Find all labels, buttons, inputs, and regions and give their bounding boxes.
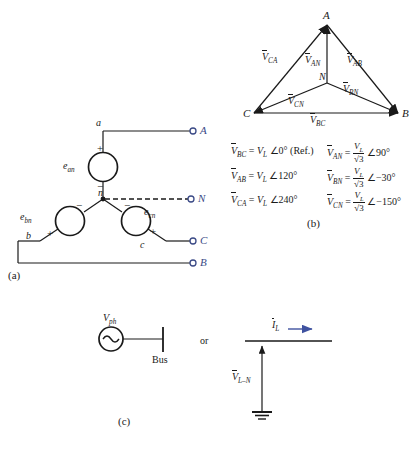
node-label-c: c (140, 240, 144, 250)
source-label-ebn-sub: bn (24, 217, 31, 225)
phasor-vertex-B: B (402, 108, 409, 119)
equation-VAN-fraction: VL √3 (353, 141, 364, 164)
phasor-label-VAN: VAN (305, 55, 320, 68)
polarity-plus-ebn: + (47, 228, 53, 239)
terminal-label-N: N (198, 193, 205, 204)
phasor-label-VCA-base: V (262, 52, 268, 62)
equation-VAB-angle-symbol: ∠ (269, 170, 278, 181)
panel-c-source-bus (99, 327, 163, 352)
phasor-label-VAB-sub: AB (353, 60, 362, 68)
phasor-vertex-C: C (243, 108, 250, 119)
phasor-label-VBN-sub: BN (349, 89, 358, 97)
equation-VAB-lhs: V (231, 170, 237, 181)
phasor-label-VBC-sub: BC (316, 120, 325, 128)
panel-label-a: (a) (8, 270, 20, 281)
phasor-label-VCN-sub: CN (294, 101, 304, 109)
or-label: or (200, 336, 208, 346)
equation-VBC-angle: 0° (279, 145, 288, 156)
source-label-vph: Vph (103, 313, 116, 326)
panel-b-phasor-diagram (254, 25, 398, 113)
phasor-label-VBC-base: V (310, 115, 316, 125)
equation-VCA: VCA = VL ∠240° (231, 194, 298, 208)
equation-VBN-num-sub: L (360, 171, 364, 178)
node-label-b: b (26, 231, 31, 241)
equation-VCA-lhs: V (231, 194, 237, 205)
phasor-vertex-N: N (319, 72, 326, 82)
equation-VCN: VCN = VL √3 ∠−150° (327, 191, 401, 214)
terminal-label-A: A (200, 125, 207, 136)
equation-VBN: VBN = VL √3 ∠−30° (327, 167, 396, 190)
equation-VAN-denominator: √3 (353, 154, 364, 164)
equation-VBN-numerator: VL (353, 166, 364, 179)
source-label-ean: ean (63, 161, 75, 174)
equation-VAB: VAB = VL ∠120° (231, 170, 297, 184)
equation-VAN-angle-symbol: ∠ (367, 147, 376, 158)
phasor-label-VBN: VBN (343, 84, 358, 97)
source-label-vph-sub: ph (109, 318, 116, 326)
voltage-label-VLN-base: V (232, 372, 238, 382)
equation-VBN-denominator: √3 (353, 179, 364, 189)
bus-label: Bus (152, 355, 168, 365)
equation-VAN-lhs-sub: AN (333, 153, 342, 161)
source-label-ecn-sub: cn (148, 212, 155, 220)
current-label-IL: IL (272, 320, 279, 333)
equation-VCN-fraction: VL √3 (353, 190, 364, 213)
polarity-minus-ebn: − (76, 200, 82, 211)
equation-VBC-note: (Ref.) (290, 145, 314, 156)
equation-VBC-mag-sub: L (263, 151, 267, 159)
phasor-label-VAN-sub: AN (311, 60, 320, 68)
polarity-plus-ean: + (97, 143, 103, 154)
source-label-ean-sub: an (67, 166, 74, 174)
panel-a-circuit (18, 128, 196, 266)
current-label-IL-sub: L (275, 325, 279, 333)
phasor-label-VBC: VBC (310, 115, 325, 128)
equation-VBN-angle-symbol: ∠ (367, 172, 376, 183)
source-label-ebn: ebn (20, 212, 32, 225)
figure-three-phase-source: a + − ean n ebn − + b ecn − + c A N C B … (0, 0, 419, 451)
voltage-label-VLN: VL–N (232, 372, 251, 385)
equation-VCN-denominator: √3 (353, 203, 364, 213)
equation-VCA-angle-symbol: ∠ (270, 194, 279, 205)
equation-VBN-eq: = (345, 172, 351, 183)
equation-VBN-lhs: V (327, 172, 333, 183)
equation-VCN-lhs: V (327, 196, 333, 207)
equation-VBC-angle-symbol: ∠ (270, 145, 279, 156)
equation-VCA-lhs-sub: CA (237, 200, 246, 208)
node-label-a: a (96, 118, 101, 128)
polarity-plus-ecn: + (150, 226, 156, 237)
phasor-label-VBN-base: V (343, 84, 349, 94)
equation-VAB-angle: 120° (278, 170, 297, 181)
equation-VAN-numerator: VL (353, 141, 364, 154)
current-label-IL-base: I (272, 320, 275, 330)
equation-VBN-lhs-sub: BN (333, 178, 342, 186)
equation-VCN-lhs-sub: CN (333, 202, 343, 210)
phasor-vertex-A: A (323, 10, 330, 21)
equation-VBC-eq: = (249, 145, 255, 156)
equation-VAN-angle: 90° (376, 147, 390, 158)
equation-VCN-angle: −150° (376, 196, 401, 207)
terminal-label-C: C (200, 235, 207, 246)
equation-VAN-lhs: V (327, 147, 333, 158)
phasor-label-VCN-base: V (288, 96, 294, 106)
source-label-ecn: ecn (144, 207, 155, 220)
equation-VCA-mag-sub: L (263, 200, 267, 208)
panel-c-line-ground (245, 329, 332, 419)
phasor-label-VAB: VAB (347, 55, 362, 68)
node-label-n: n (98, 188, 103, 198)
voltage-label-VLN-sub: L–N (238, 377, 250, 385)
equation-VAN-eq: = (345, 147, 351, 158)
equation-VBN-angle: −30° (376, 172, 396, 183)
equation-VBC: VBC = VL ∠0° (Ref.) (231, 145, 314, 159)
phasor-label-VCA: VCA (262, 52, 277, 65)
equation-VAB-mag-sub: L (263, 176, 267, 184)
panel-label-c: (c) (118, 416, 130, 427)
phasor-label-VCN: VCN (288, 96, 304, 109)
equation-VCN-eq: = (345, 196, 351, 207)
equation-VBC-lhs: V (231, 145, 237, 156)
polarity-minus-ecn: − (124, 200, 130, 211)
equation-VAN-num-sub: L (360, 146, 364, 153)
equation-VCN-angle-symbol: ∠ (367, 196, 376, 207)
equation-VCN-num-sub: L (360, 195, 364, 202)
equation-VCA-angle: 240° (279, 194, 298, 205)
equation-VCA-eq: = (249, 194, 255, 205)
